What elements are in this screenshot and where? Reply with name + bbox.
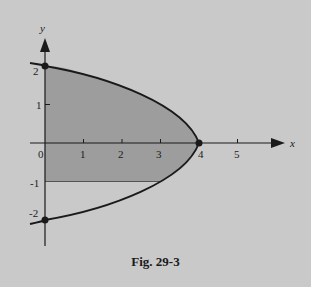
x-tick-label-5: 5	[234, 148, 240, 160]
point-0-2	[42, 63, 49, 70]
x-tick-label-2: 2	[118, 148, 124, 160]
x-tick-label-3: 3	[156, 148, 162, 160]
y-tick-label-1: 1	[36, 99, 42, 111]
x-tick-label-0: 0	[38, 148, 44, 160]
shaded-region-fill	[45, 66, 199, 182]
figure-caption: Fig. 29-3	[0, 254, 311, 270]
y-axis-label: y	[39, 22, 45, 34]
y-axis-arrow-icon	[40, 38, 50, 52]
point-0-neg2	[42, 217, 49, 224]
x-tick-label-1: 1	[80, 148, 86, 160]
x-tick-label-4: 4	[198, 148, 204, 160]
x-axis-arrow-icon	[271, 138, 285, 148]
x-axis-label: x	[289, 137, 295, 149]
parabola-figure: y x 0 1 2 3 4 5 2 1 -1 -2	[0, 0, 311, 287]
point-4-0	[196, 140, 203, 147]
y-tick-label-neg2: -2	[29, 207, 38, 219]
y-tick-label-2: 2	[33, 65, 39, 77]
y-tick-label-neg1: -1	[30, 177, 39, 189]
